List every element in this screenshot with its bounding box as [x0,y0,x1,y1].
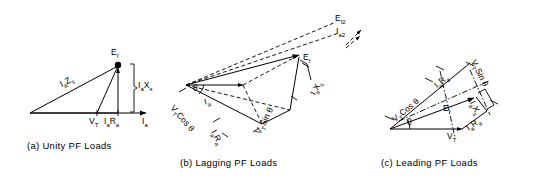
panel-c-ef-label: Ef [443,103,450,115]
panel-b-ef-label: Ef [303,52,310,64]
panel-c-theta-label: θ [407,117,412,127]
panel-a-iara-label: IaRa [104,116,119,128]
panel-a-iaxs-bracket [130,64,137,112]
panel-b-dim-tick-2 [213,118,220,122]
panel-b-construction-2 [243,55,299,85]
panel-b-iaxs-vector [290,57,299,110]
panel-c-vt-label: VT [447,131,456,143]
panel-b-ia2-line [186,33,339,85]
panel-c-caption: (c) Leading PF Loads [381,157,478,168]
panel-a-vt-to-ef [97,68,117,113]
phasor-diagram-figure: Ef IaZs VT IaRa Ia IaXs (a) Unity PF Loa… [0,0,539,176]
panel-b-ef2-label: Ef2 [335,13,346,25]
panel-a-vt-label: VT [89,116,98,128]
panel-c-dim-tick-3 [436,66,444,70]
panel-b-dim-tick-1 [179,88,186,92]
panel-a-caption: (a) Unity PF Loads [27,140,112,151]
panel-a-iaxs-label: IaXs [138,80,152,92]
panel-a-ef-point [115,62,121,68]
panel-a-iazs-vector [30,66,118,113]
panel-b-caption: (b) Lagging PF Loads [180,157,277,168]
panel-b-construction-3 [186,85,290,110]
panel-b-theta-label: θ [193,83,198,93]
panel-a-ef-label: Ef [111,47,118,59]
panel-a-ia-axis-label: Ia [142,116,148,128]
panel-b-ef-vector [186,55,299,85]
panel-b-ia2-label: Ia2 [336,26,345,38]
panel-a-graphics [30,62,146,116]
